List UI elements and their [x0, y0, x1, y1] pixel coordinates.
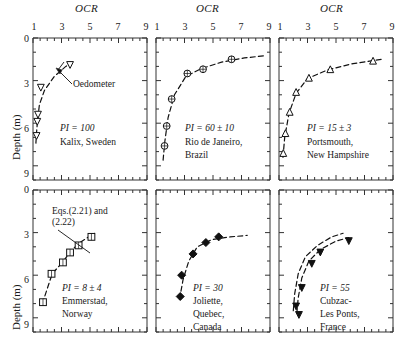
data-point	[200, 66, 207, 73]
data-point	[176, 293, 184, 301]
data-point	[34, 118, 41, 125]
data-point	[60, 259, 67, 266]
data-point	[282, 130, 289, 137]
data-point	[67, 62, 74, 69]
data-point	[35, 111, 42, 118]
data-point	[202, 239, 210, 247]
axes-group	[33, 38, 393, 332]
trend-curve	[283, 59, 382, 157]
trend-curve-secondary	[293, 233, 343, 310]
leader-line-equations	[58, 230, 90, 253]
plot-canvas	[0, 0, 418, 363]
data-point	[178, 271, 186, 279]
data-series-group	[33, 56, 381, 319]
trend-curve	[163, 56, 264, 160]
data-point	[280, 150, 287, 157]
data-point	[308, 260, 315, 267]
data-point	[67, 249, 74, 256]
data-point	[296, 312, 303, 319]
data-point	[228, 56, 235, 63]
data-point	[184, 70, 191, 77]
data-point	[215, 233, 223, 241]
panel-3-series	[280, 57, 382, 157]
data-point	[168, 96, 175, 103]
figure-ocr-depth-panels: OCR OCR OCR Depth (m) Depth (m) 1 3 5 7 …	[0, 0, 418, 363]
data-point	[345, 238, 352, 245]
data-point	[306, 74, 313, 81]
data-point	[189, 250, 197, 258]
trend-curve	[180, 235, 248, 299]
data-point	[33, 133, 40, 140]
panel-5-series	[176, 233, 247, 301]
data-point	[88, 233, 95, 240]
trend-curve	[42, 233, 94, 303]
data-point	[40, 299, 47, 306]
data-point	[161, 143, 168, 150]
data-point	[163, 123, 170, 130]
leader-lines-group	[56, 62, 90, 253]
panel-2-series	[161, 56, 264, 160]
trend-curve	[36, 63, 72, 143]
data-point	[286, 108, 293, 115]
panel-6-series	[293, 233, 353, 318]
data-point	[48, 270, 55, 277]
panel-1-series	[33, 62, 73, 144]
data-point	[37, 84, 44, 91]
panel-4-series	[40, 233, 95, 305]
